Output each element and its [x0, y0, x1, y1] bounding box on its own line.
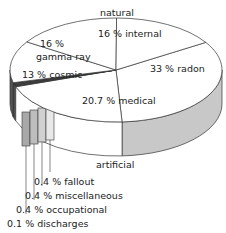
small-slice-block-occupational — [30, 110, 38, 144]
slice-label-gamma-ray-name: gamma ray — [36, 51, 91, 62]
group-label-natural: natural — [100, 7, 134, 18]
slice-label-miscellaneous: 0.4 % miscellaneous — [25, 190, 123, 201]
slice-label-internal: 16 % internal — [98, 28, 162, 39]
slice-label-cosmic: 13 % cosmic — [22, 69, 82, 80]
slice-label-discharges: 0.1 % discharges — [7, 218, 88, 229]
small-slice-block-miscellaneous — [38, 108, 46, 142]
group-label-artificial: artificial — [96, 159, 134, 170]
small-slice-block-discharges — [22, 112, 30, 146]
slice-label-fallout: 0.4 % fallout — [34, 176, 94, 187]
pie-chart: natural 16 % internal 16 % gamma ray 13 … — [0, 0, 226, 233]
slice-label-occupational: 0.4 % occupational — [16, 204, 107, 215]
slice-label-medical: 20.7 % medical — [82, 95, 156, 106]
slice-label-gamma-ray-value: 16 % — [40, 38, 64, 49]
slice-label-radon: 33 % radon — [150, 63, 205, 74]
